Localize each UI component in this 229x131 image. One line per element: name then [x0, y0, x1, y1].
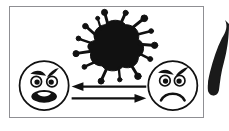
arrow-right-icon [72, 94, 147, 103]
diagonal-shape-icon [205, 18, 229, 104]
arrow-left-icon [72, 82, 147, 91]
cropped-adjacent-graphic [205, 18, 229, 104]
illustration-canvas [0, 0, 229, 131]
illustration-panel [9, 6, 204, 118]
arrows-group [10, 7, 203, 117]
